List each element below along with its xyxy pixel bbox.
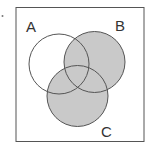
venn-diagram: A B C [0,0,152,147]
bullet-dot [2,15,4,17]
venn-diagram-canvas: A B C [0,0,152,147]
set-b-label: B [115,17,125,34]
set-c-label: C [101,123,112,140]
set-a-label: A [26,18,36,35]
